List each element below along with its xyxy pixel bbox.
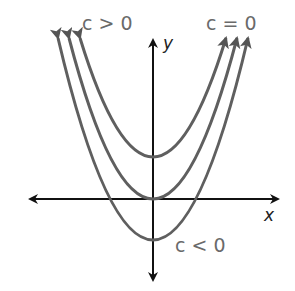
- x-axis-label: x: [263, 205, 275, 225]
- y-axis-label: y: [162, 33, 174, 53]
- label-c-negative: c < 0: [175, 234, 226, 256]
- parabola-family-diagram: c > 0 c = 0 c < 0 y x: [0, 0, 295, 291]
- label-c-positive: c > 0: [82, 12, 133, 34]
- label-c-zero: c = 0: [206, 12, 257, 34]
